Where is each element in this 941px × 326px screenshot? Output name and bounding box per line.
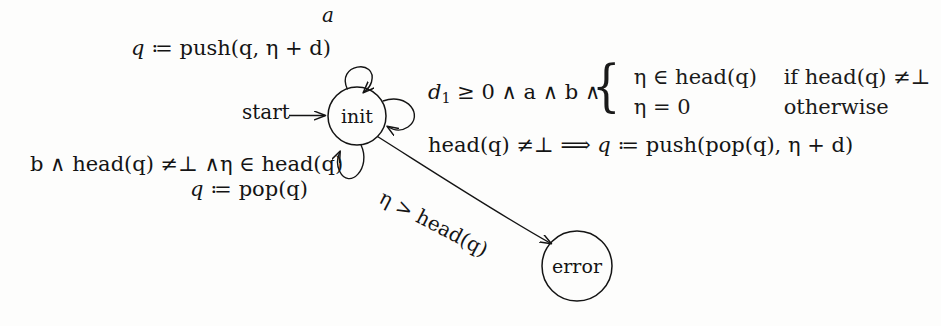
bottom-loop-guard: b ∧ head(q) ≠⊥ ∧η ∈ head(q) — [30, 152, 308, 177]
case-expression: η = 0 — [634, 92, 784, 122]
implication-consequent-expr: push(pop(q), η + d) — [646, 133, 853, 157]
guard-relation: ≥ — [457, 80, 475, 104]
guard-value: 0 — [482, 80, 495, 104]
cases-row: η ∈ head(q) if head(q) ≠⊥ — [634, 62, 931, 92]
case-condition: if head(q) ≠⊥ — [784, 62, 931, 92]
case-condition: otherwise — [784, 92, 889, 122]
assign-operator: ≔ — [210, 177, 232, 201]
bottom-loop-update-expr: pop(q) — [239, 177, 308, 201]
top-loop-guard-label: a — [322, 4, 334, 28]
automaton-figure: init error a q ≔ push(q, η + d) start d1… — [0, 0, 941, 326]
implication-consequent-var: q — [597, 133, 610, 157]
guard-variable: d — [428, 80, 441, 104]
bottom-loop-update: q ≔ pop(q) — [30, 177, 308, 202]
right-loop-guard-label: d1 ≥ 0 ∧ a ∧ b ∧ — [428, 80, 600, 107]
case-expression: η ∈ head(q) — [634, 62, 784, 92]
bottom-loop-label: b ∧ head(q) ≠⊥ ∧η ∈ head(q) q ≔ pop(q) — [30, 152, 308, 202]
guard-variable-subscript: 1 — [441, 90, 450, 106]
guard-conjunction: ∧ a ∧ b ∧ — [502, 80, 601, 104]
top-loop-update-label: q ≔ push(q, η + d) — [131, 36, 331, 61]
start-label: start — [242, 101, 290, 125]
cases-rows: η ∈ head(q) if head(q) ≠⊥ η = 0 otherwis… — [634, 62, 931, 123]
self-loop-right — [383, 99, 414, 130]
assign-operator: ≔ — [151, 36, 173, 60]
state-init-label: init — [341, 105, 373, 127]
top-loop-update-var: q — [131, 36, 144, 60]
cases-row: η = 0 otherwise — [634, 92, 931, 122]
implies-arrow: ⟹ — [560, 133, 590, 157]
implication-antecedent: head(q) ≠⊥ — [428, 133, 554, 157]
state-error-label: error — [552, 255, 603, 277]
top-loop-update-expr: push(q, η + d) — [180, 36, 331, 60]
cases-block: { η ∈ head(q) if head(q) ≠⊥ η = 0 otherw… — [592, 62, 931, 123]
implication-label: head(q) ≠⊥ ⟹ q ≔ push(pop(q), η + d) — [428, 133, 853, 158]
cases-brace: { — [592, 58, 621, 123]
bottom-loop-update-var: q — [190, 177, 203, 201]
assign-operator: ≔ — [617, 133, 639, 157]
